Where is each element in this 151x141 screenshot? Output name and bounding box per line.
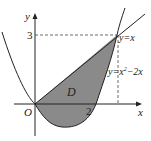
parabola-equation-label: y=x2−2x	[107, 66, 143, 77]
tick-label-2: 2	[86, 105, 92, 117]
x-axis-label: x	[137, 106, 143, 118]
y-axis-arrow-icon	[33, 13, 38, 19]
y-axis-label: y	[24, 10, 30, 22]
region-label: D	[66, 85, 76, 99]
origin-label: O	[24, 106, 32, 118]
tick-label-3: 3	[27, 29, 33, 41]
region-d	[35, 35, 117, 127]
function-diagram: y x O 3 2 D y=x y=x2−2x	[0, 0, 151, 141]
line-equation-label: y=x	[118, 32, 135, 43]
